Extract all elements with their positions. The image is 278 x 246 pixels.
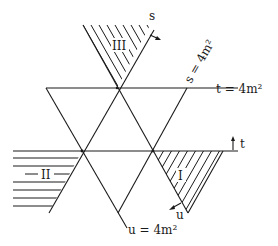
vertex-dot bbox=[81, 150, 84, 153]
vertex-dot bbox=[152, 150, 155, 153]
diagonal-down-right-line bbox=[83, 25, 188, 213]
region-iii-hatching bbox=[83, 25, 187, 95]
t-direction-arrow-icon bbox=[231, 136, 235, 150]
u-axis-label: u bbox=[176, 208, 184, 222]
t-axis-label: t bbox=[240, 137, 245, 151]
s-axis-label: s bbox=[149, 9, 155, 23]
region-iii-label: III bbox=[112, 39, 126, 53]
region-i-label: I bbox=[178, 169, 183, 183]
vertex-dot bbox=[116, 87, 118, 89]
mandelstam-diagram: s t u t = 4m² u = 4m² s = 4m² III I II bbox=[0, 0, 278, 246]
t-line-label: t = 4m² bbox=[216, 82, 263, 96]
region-ii-label: II bbox=[41, 168, 51, 182]
s-line-label: s = 4m² bbox=[181, 37, 217, 85]
s-direction-arrow-icon bbox=[150, 35, 161, 40]
diagram-svg: s t u t = 4m² u = 4m² s = 4m² III I II bbox=[0, 0, 278, 246]
u-line-label: u = 4m² bbox=[128, 223, 177, 237]
